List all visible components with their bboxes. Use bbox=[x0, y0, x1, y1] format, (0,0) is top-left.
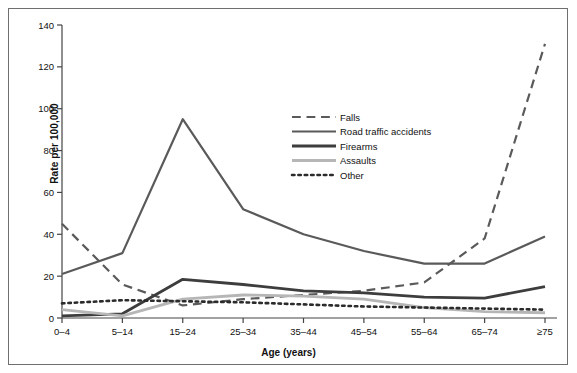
y-axis-tick-label: 0 bbox=[49, 313, 54, 324]
line-chart-svg: 0204060801001201400–45–1415–2425–3435–44… bbox=[0, 0, 577, 373]
x-axis-tick-label: 55–64 bbox=[411, 326, 437, 337]
legend-label-other: Other bbox=[340, 170, 364, 181]
legend-label-assaults: Assaults bbox=[340, 155, 376, 166]
series-line-road-traffic-accidents bbox=[62, 119, 545, 274]
x-axis-tick-label: 15–24 bbox=[170, 326, 196, 337]
y-axis-tick-label: 40 bbox=[43, 229, 54, 240]
y-axis-title: Rate per 100,000 bbox=[49, 84, 60, 204]
x-axis-tick-label: 0–4 bbox=[54, 326, 70, 337]
figure-container: 0204060801001201400–45–1415–2425–3435–44… bbox=[0, 0, 577, 373]
x-axis-tick-label: 35–44 bbox=[290, 326, 316, 337]
y-axis-tick-label: 120 bbox=[38, 61, 54, 72]
legend-label-falls: Falls bbox=[340, 112, 360, 123]
x-axis-tick-label: 25–34 bbox=[230, 326, 256, 337]
x-axis-tick-label: 5–14 bbox=[112, 326, 133, 337]
data-series bbox=[62, 44, 545, 316]
x-axis-title: Age (years) bbox=[0, 347, 577, 358]
x-axis-tick-label: ≥75 bbox=[537, 326, 553, 337]
x-axis-tick-label: 65–74 bbox=[471, 326, 497, 337]
y-axis-tick-label: 20 bbox=[43, 271, 54, 282]
plot-area: 0204060801001201400–45–1415–2425–3435–44… bbox=[0, 0, 577, 373]
legend-label-firearms: Firearms bbox=[340, 141, 378, 152]
y-axis-tick-label: 140 bbox=[38, 20, 54, 31]
chart-legend: FallsRoad traffic accidentsFirearmsAssau… bbox=[292, 112, 431, 181]
x-axis-tick-label: 45–54 bbox=[351, 326, 377, 337]
legend-label-road-traffic-accidents: Road traffic accidents bbox=[340, 126, 431, 137]
